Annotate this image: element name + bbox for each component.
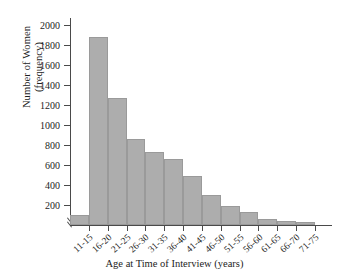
x-axis-tick <box>108 226 109 231</box>
y-axis-tick-label: 400 <box>45 180 60 191</box>
x-axis-tick-label: 41-45 <box>184 232 208 255</box>
x-axis-tick <box>89 226 90 231</box>
bar <box>108 98 127 225</box>
x-axis-tick <box>277 226 278 231</box>
x-axis-tick-label: 16-20 <box>90 232 114 255</box>
y-axis-tick-label: 200 <box>45 200 60 211</box>
x-axis-tick <box>240 226 241 231</box>
bar <box>89 37 108 225</box>
bar <box>258 219 277 226</box>
x-axis-tick <box>315 226 316 231</box>
x-axis-tick-label: 66-70 <box>278 232 302 255</box>
x-axis-tick <box>258 226 259 231</box>
x-axis-tick <box>183 226 184 231</box>
x-axis-tick-label: 21-25 <box>109 232 133 255</box>
x-axis-tick-label: 31-35 <box>146 232 170 255</box>
bar <box>70 215 89 225</box>
y-axis-tick-label: 1000 <box>40 120 60 131</box>
bar-series <box>70 25 332 225</box>
bar <box>127 139 146 225</box>
x-axis-tick <box>127 226 128 231</box>
bar <box>145 152 164 225</box>
x-axis-tick-label: 56-60 <box>241 232 265 255</box>
y-axis-tick-label: 1200 <box>40 100 60 111</box>
bar <box>221 206 240 225</box>
x-axis-tick-label: 71-75 <box>297 232 321 255</box>
y-axis-tick-label: 1600 <box>40 60 60 71</box>
bar <box>277 221 296 226</box>
y-axis-tick-label: 1400 <box>40 80 60 91</box>
y-axis-tick-label: 1800 <box>40 40 60 51</box>
x-axis-tick <box>202 226 203 231</box>
x-axis-tick-label: 36-40 <box>165 232 189 255</box>
x-axis-tick <box>145 226 146 231</box>
bar <box>164 159 183 225</box>
x-axis-tick <box>296 226 297 231</box>
x-axis-tick-label: 51-55 <box>222 232 246 255</box>
bar <box>202 195 221 225</box>
bar <box>240 212 259 226</box>
x-axis-tick-label: 61-65 <box>260 232 284 255</box>
x-axis-tick-label: 11-15 <box>71 232 94 254</box>
x-axis-title: Age at Time of Interview (years) <box>0 258 349 269</box>
bar <box>183 176 202 225</box>
x-axis-tick-label: 46-50 <box>203 232 227 255</box>
y-axis-tick-label: 800 <box>45 140 60 151</box>
x-axis-tick <box>164 226 165 231</box>
histogram-chart: Number of Women (frequency) 200400600800… <box>0 0 349 274</box>
y-axis-tick-label: 600 <box>45 160 60 171</box>
x-axis-tick <box>221 226 222 231</box>
bar <box>296 222 315 226</box>
y-axis-title-line-1: Number of Women <box>21 26 33 108</box>
y-axis-tick-label: 2000 <box>40 20 60 31</box>
x-axis-tick-label: 26-30 <box>128 232 152 255</box>
